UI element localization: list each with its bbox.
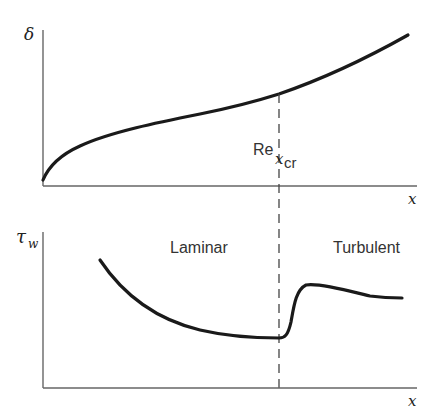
re-sub-cr: cr <box>284 154 297 171</box>
laminar-label: Laminar <box>170 239 228 256</box>
bottom-x-label: x <box>408 392 417 410</box>
boundary-layer-diagram: δ x Re x cr τ w x Laminar Turbulent <box>0 0 439 413</box>
re-sub-x: x <box>275 150 284 168</box>
top-y-label: δ <box>24 24 34 44</box>
critical-reynolds-label: Re x cr <box>253 141 297 171</box>
bottom-y-label: τ <box>16 226 27 247</box>
top-x-label: x <box>408 190 417 208</box>
wall-shear-stress-curve <box>100 260 402 338</box>
bottom-y-label-sub: w <box>28 237 39 251</box>
turbulent-label: Turbulent <box>333 239 401 256</box>
bottom-plot: τ w x Laminar Turbulent <box>16 226 417 410</box>
boundary-layer-thickness-curve <box>43 35 408 180</box>
top-plot: δ x <box>24 24 417 208</box>
re-label: Re <box>253 141 274 158</box>
